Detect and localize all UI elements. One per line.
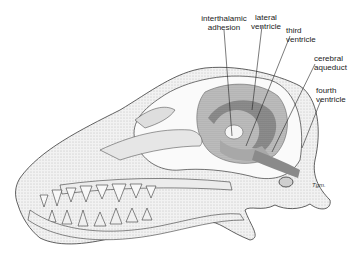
label-line: aqueduct [314, 63, 347, 72]
interthalamic-adhesion-shape [225, 125, 243, 139]
label-line: ventricle [244, 22, 288, 31]
artist-signature: Tgm. [312, 182, 326, 188]
label-line: ventricle [286, 35, 316, 44]
label-lateral-ventricle: lateral ventricle [244, 13, 288, 31]
label-fourth-ventricle: fourth ventricle [316, 86, 346, 104]
label-line: lateral [244, 13, 288, 22]
anatomical-diagram: interthalamic adhesion lateral ventricle… [0, 0, 356, 267]
label-third-ventricle: third ventricle [286, 26, 316, 44]
label-line: ventricle [316, 95, 346, 104]
label-line: cerebral [314, 54, 347, 63]
label-line: third [286, 26, 316, 35]
label-cerebral-aqueduct: cerebral aqueduct [314, 54, 347, 72]
label-line: fourth [316, 86, 346, 95]
